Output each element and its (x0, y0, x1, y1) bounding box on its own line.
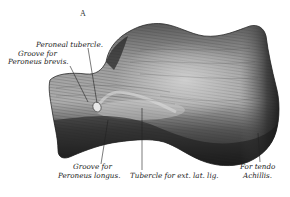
label-groove-longus-1: Groove for (73, 163, 112, 171)
label-peroneal-tubercle: Peroneal tubercle. (36, 41, 103, 49)
label-groove-longus-2: Peroneus longus. (58, 172, 120, 180)
figure-letter: A (80, 9, 86, 18)
anatomical-figure: A Peroneal tubercle. Groove for Peroneus… (0, 0, 290, 197)
label-tubercle-ext-lat-lig: Tubercle for ext. lat. lig. (130, 172, 219, 180)
label-tendo-achillis-1: For tendo (240, 163, 275, 171)
label-tendo-achillis-2: Achillis. (243, 172, 272, 180)
label-groove-brevis-2: Peroneus brevis. (8, 58, 69, 66)
